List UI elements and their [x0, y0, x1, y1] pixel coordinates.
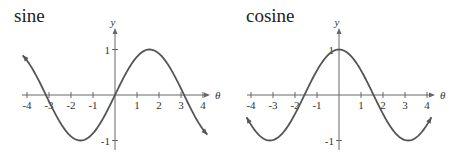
x-tick-label: -1: [312, 99, 321, 111]
x-tick-label: 1: [134, 99, 140, 111]
y-axis-label: y: [334, 16, 340, 28]
x-axis-label: θ: [215, 89, 221, 101]
x-axis-label: θ: [440, 89, 446, 101]
x-tick-label: -4: [246, 99, 256, 111]
x-tick-label: 3: [402, 99, 408, 111]
y-axis-label: y: [110, 16, 116, 28]
x-tick-label: 3: [178, 99, 184, 111]
x-tick-label: -2: [66, 99, 75, 111]
x-tick-label: -4: [22, 99, 32, 111]
y-tick-label: 1: [105, 44, 111, 56]
sine-panel: sine θy-4-3-2-112341-1: [0, 0, 232, 156]
cosine-chart: θy-4-3-2-112341-1: [232, 0, 465, 156]
x-tick-label: -1: [88, 99, 97, 111]
sine-chart: θy-4-3-2-112341-1: [0, 0, 232, 156]
cosine-panel: cosine θy-4-3-2-112341-1: [232, 0, 465, 156]
y-tick-label: -1: [325, 135, 334, 147]
x-tick-label: 4: [200, 99, 206, 111]
x-axis-arrow-icon: [204, 93, 210, 98]
x-tick-label: 2: [156, 99, 162, 111]
y-tick-label: -1: [101, 135, 110, 147]
x-axis-arrow-icon: [429, 93, 435, 98]
y-axis-arrow-icon: [337, 28, 342, 34]
x-tick-label: -3: [268, 99, 278, 111]
x-tick-label: 1: [358, 99, 364, 111]
x-tick-label: 4: [424, 99, 430, 111]
y-axis-arrow-icon: [113, 28, 118, 34]
